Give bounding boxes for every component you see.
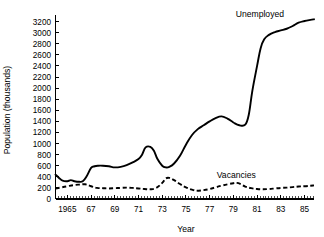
y-tick-label: 2400 xyxy=(33,62,52,71)
x-tick-label: 83 xyxy=(276,205,286,214)
x-tick-label: 85 xyxy=(300,205,310,214)
x-tick-label: 69 xyxy=(110,205,120,214)
series-label-vacancies: Vacancies xyxy=(217,170,256,180)
y-tick-label: 400 xyxy=(37,173,51,182)
x-axis-title: Year xyxy=(177,224,195,234)
y-tick-label: 3200 xyxy=(33,18,52,27)
x-tick-label: 71 xyxy=(134,205,144,214)
series-label-unemployed: Unemployed xyxy=(236,9,284,19)
y-tick-label: 200 xyxy=(37,184,51,193)
y-tick-label: 0 xyxy=(46,195,51,204)
unemployment-vacancies-line-chart: 0200400600800100012001400160018002000220… xyxy=(0,0,324,237)
y-tick-label: 1400 xyxy=(33,117,52,126)
y-tick-label: 1600 xyxy=(33,106,52,115)
y-tick-label: 600 xyxy=(37,162,51,171)
y-tick-label: 2800 xyxy=(33,40,52,49)
x-tick-label: 67 xyxy=(87,205,97,214)
y-tick-label: 2200 xyxy=(33,73,52,82)
x-tick-label: 81 xyxy=(253,205,263,214)
x-tick-label: 73 xyxy=(158,205,168,214)
y-tick-label: 1200 xyxy=(33,128,52,137)
y-tick-label: 3000 xyxy=(33,29,52,38)
chart-container: 0200400600800100012001400160018002000220… xyxy=(0,0,324,237)
x-tick-label: 79 xyxy=(229,205,239,214)
x-tick-label: 1965 xyxy=(58,205,77,214)
y-tick-label: 1000 xyxy=(33,140,52,149)
y-tick-label: 1800 xyxy=(33,95,52,104)
x-tick-label: 77 xyxy=(205,205,215,214)
y-tick-label: 2600 xyxy=(33,51,52,60)
x-tick-label: 75 xyxy=(181,205,191,214)
y-axis-title: Population (thousands) xyxy=(2,66,12,155)
y-tick-label: 2000 xyxy=(33,84,52,93)
y-tick-label: 800 xyxy=(37,151,51,160)
